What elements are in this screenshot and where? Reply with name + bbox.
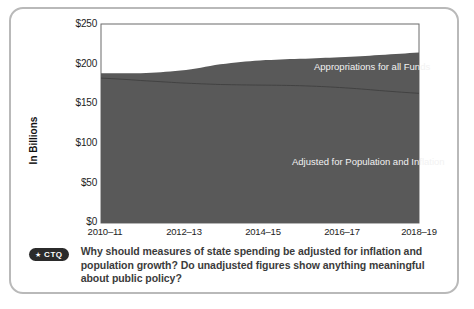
x-tick-label-2012-13: 2012–13 xyxy=(154,226,214,237)
x-tick-label-2010-11: 2010–11 xyxy=(75,226,135,237)
series-label-adjusted: Adjusted for Population and Inflation xyxy=(292,156,445,168)
series-label-appropriations: Appropriations for all Funds xyxy=(314,61,430,73)
y-tick-label-200: $200 xyxy=(55,58,97,69)
figure-card: $250 $200 $150 $100 $50 $0 In Billions 2… xyxy=(9,7,459,294)
y-axis-title: In Billions xyxy=(28,106,39,176)
chart-region: $250 $200 $150 $100 $50 $0 In Billions 2… xyxy=(11,9,461,241)
area-chart-plot xyxy=(11,9,461,241)
y-tick-label-250: $250 xyxy=(55,18,97,29)
y-tick-label-150: $150 xyxy=(55,97,97,108)
series-area-appropriations xyxy=(101,52,419,223)
x-tick-label-2014-15: 2014–15 xyxy=(233,226,293,237)
y-tick-label-100: $100 xyxy=(55,137,97,148)
star-icon: ★ xyxy=(35,251,41,258)
y-tick-label-50: $50 xyxy=(55,177,97,188)
caption-text: Why should measures of state spending be… xyxy=(81,245,443,286)
ctq-badge-label: CTQ xyxy=(44,251,63,259)
ctq-badge: ★ CTQ xyxy=(29,248,69,261)
x-tick-label-2018-19: 2018–19 xyxy=(389,226,449,237)
x-tick-label-2016-17: 2016–17 xyxy=(312,226,372,237)
caption-block: ★ CTQ Why should measures of state spend… xyxy=(29,245,443,286)
